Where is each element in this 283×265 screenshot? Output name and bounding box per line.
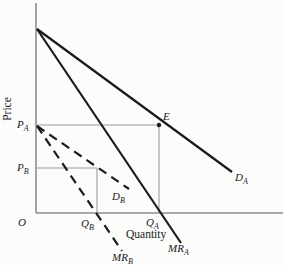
demand-A-curve	[37, 29, 232, 172]
demand-B-label: DB	[111, 190, 125, 205]
marginal-revenue-B-curve	[37, 126, 122, 251]
origin-label: O	[18, 216, 26, 228]
quantity-B-label: QB	[81, 217, 94, 232]
marginal-revenue-B-label: MRB	[111, 251, 133, 265]
equilibrium-E-point	[157, 123, 161, 127]
demand-A-label: DA	[234, 171, 248, 186]
price-A-label: PA	[16, 118, 29, 133]
price-B-label: PB	[16, 161, 29, 176]
economics-demand-mr-diagram: DAMRADBMRBEPAPBOQBQAPriceQuantity	[0, 0, 283, 265]
marginal-revenue-A-label: MRA	[167, 242, 189, 257]
diagram-canvas: DAMRADBMRBEPAPBOQBQAPriceQuantity	[0, 0, 283, 265]
equilibrium-E-label: E	[162, 110, 170, 122]
quantity-axis-label: Quantity	[126, 228, 166, 241]
price-axis-label: Price	[1, 97, 13, 121]
demand-B-curve	[37, 126, 129, 189]
